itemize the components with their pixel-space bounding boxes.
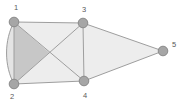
graph-canvas: 1 2 3 4 5: [0, 0, 183, 103]
node-5[interactable]: [158, 46, 168, 56]
face-outer-triangle: [83, 23, 163, 81]
node-label-3: 3: [82, 5, 86, 14]
node-2[interactable]: [9, 79, 19, 89]
node-label-4: 4: [83, 91, 87, 100]
node-label-1: 1: [14, 3, 18, 12]
graph-figure: 1 2 3 4 5: [0, 0, 183, 103]
graph-faces: [7, 22, 164, 84]
node-3[interactable]: [78, 18, 88, 28]
node-4[interactable]: [79, 76, 89, 86]
node-label-2: 2: [10, 92, 14, 101]
node-1[interactable]: [9, 17, 19, 27]
node-label-5: 5: [172, 40, 176, 49]
